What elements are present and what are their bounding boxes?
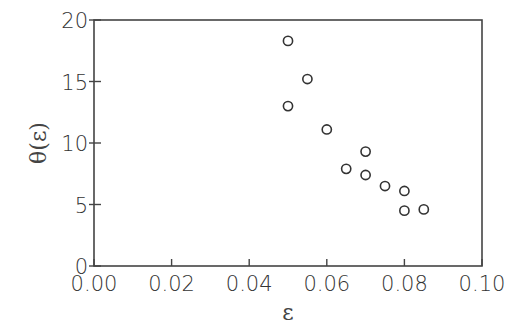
data-point [322, 125, 331, 134]
y-tick-label: 15 [61, 71, 88, 95]
data-point [400, 206, 409, 215]
x-axis-ticks: 0.000.020.040.060.080.10 [71, 259, 506, 296]
y-tick-label: 5 [75, 194, 88, 218]
y-tick-label: 10 [61, 132, 88, 156]
y-axis-ticks: 05101520 [61, 9, 101, 279]
x-axis-label: ε [282, 300, 293, 325]
data-point [361, 170, 370, 179]
x-tick-label: 0.08 [381, 272, 428, 296]
y-tick-label: 20 [61, 9, 88, 33]
x-tick-label: 0.06 [303, 272, 350, 296]
data-point [419, 205, 428, 214]
data-point [361, 147, 370, 156]
y-axis-label: θ(ε) [26, 122, 51, 164]
y-tick-label: 0 [75, 255, 88, 279]
data-point [380, 181, 389, 190]
plot-frame [94, 20, 482, 266]
x-tick-label: 0.04 [226, 272, 273, 296]
data-point [303, 74, 312, 83]
scatter-chart: 0.000.020.040.060.080.10 05101520 ε θ(ε) [0, 0, 516, 331]
data-point [342, 164, 351, 173]
x-tick-label: 0.02 [148, 272, 195, 296]
data-points [283, 36, 428, 215]
x-tick-label: 0.10 [459, 272, 506, 296]
data-point [283, 102, 292, 111]
data-point [400, 186, 409, 195]
data-point [283, 36, 292, 45]
